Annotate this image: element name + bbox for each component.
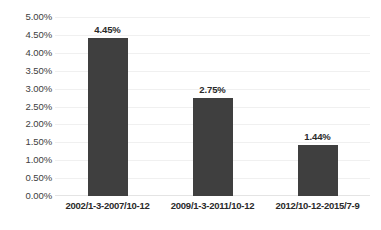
x-axis-category-label: 2009/1-3-2011/10-12 bbox=[160, 200, 265, 212]
bar-group: 1.44% bbox=[265, 17, 370, 196]
y-axis-tick-label: 3.50% bbox=[0, 66, 52, 76]
y-axis-tick-label: 0.50% bbox=[0, 173, 52, 183]
y-axis-tick-label: 4.00% bbox=[0, 48, 52, 58]
bar-value-label: 2.75% bbox=[199, 84, 225, 95]
bar-chart: 5.00% 4.50% 4.00% 3.50% 3.00% 2.50% 2.00… bbox=[0, 0, 381, 230]
y-axis-tick-label: 2.50% bbox=[0, 102, 52, 112]
y-axis-tick-label: 1.50% bbox=[0, 137, 52, 147]
bar-group: 4.45% bbox=[55, 17, 160, 196]
plot-area: 4.45% 2.75% 1.44% bbox=[55, 17, 370, 196]
x-axis-category-label: 2002/1-3-2007/10-12 bbox=[55, 200, 160, 212]
bar-group: 2.75% bbox=[160, 17, 265, 196]
x-axis-category-label: 2012/10-12-2015/7-9 bbox=[265, 200, 370, 212]
y-axis: 5.00% 4.50% 4.00% 3.50% 3.00% 2.50% 2.00… bbox=[0, 0, 52, 230]
y-axis-tick-label: 4.50% bbox=[0, 30, 52, 40]
y-axis-tick-label: 1.00% bbox=[0, 155, 52, 165]
y-axis-tick-label: 5.00% bbox=[0, 12, 52, 22]
bar-value-label: 4.45% bbox=[94, 24, 120, 35]
bar[interactable] bbox=[193, 98, 233, 196]
y-axis-tick-label: 0.00% bbox=[0, 191, 52, 201]
bar[interactable] bbox=[298, 145, 338, 196]
bar[interactable] bbox=[88, 38, 128, 196]
y-axis-tick-label: 2.00% bbox=[0, 119, 52, 129]
x-axis: 2002/1-3-2007/10-12 2009/1-3-2011/10-12 … bbox=[55, 200, 370, 222]
y-axis-tick-label: 3.00% bbox=[0, 84, 52, 94]
bar-value-label: 1.44% bbox=[304, 131, 330, 142]
